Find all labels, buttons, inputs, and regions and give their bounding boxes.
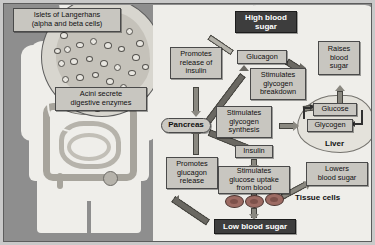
glucagon-label: Glucagon xyxy=(246,53,278,62)
node-glucose: Glucose xyxy=(313,103,357,116)
cecum-icon xyxy=(103,171,118,186)
arrow-promotes-glucagon-to-pancreas xyxy=(193,133,199,155)
node-glucagon: Glucagon xyxy=(237,50,287,64)
liver-label: Liver xyxy=(325,139,344,148)
tissue-cell-3 xyxy=(265,193,284,206)
callout-acini: Acini secrete digestive enzymes xyxy=(55,87,147,111)
high-blood-sugar-line1: High blood xyxy=(245,13,287,22)
promotes-insulin-line3: insulin xyxy=(186,66,207,75)
leg-split xyxy=(87,201,91,235)
arrowhead-lowsugar-to-promotes-glucagon xyxy=(173,195,179,205)
insulin-label: Insulin xyxy=(243,147,264,156)
high-blood-sugar-line2: sugar xyxy=(255,22,277,31)
arrowhead-glucose-to-raises xyxy=(335,85,345,91)
diagram-canvas: Islets of Langerhans (alpha and beta cel… xyxy=(0,0,375,245)
islets-label-line2: (alpha and beta cells) xyxy=(32,19,103,28)
label-liver: Liver xyxy=(325,139,344,148)
node-stimulates-glycogen-breakdown: Stimulates glycogen breakdown xyxy=(250,68,306,100)
label-tissue-cells: Tissue cells xyxy=(295,193,340,202)
appendix-icon xyxy=(57,173,63,189)
stim-synthesis-line3: synthesis xyxy=(229,125,260,134)
node-low-blood-sugar: Low blood sugar xyxy=(214,219,296,234)
cycle-line-right xyxy=(361,110,363,124)
raises-line3: sugar xyxy=(330,61,349,70)
node-pancreas: Pancreas xyxy=(161,118,211,133)
callout-islets-of-langerhans: Islets of Langerhans (alpha and beta cel… xyxy=(13,8,121,32)
node-lowers-blood-sugar: Lowers blood sugar xyxy=(306,162,368,186)
glycogen-label: Glycogen xyxy=(314,121,345,130)
arrow-promotes-insulin-to-pancreas xyxy=(193,87,199,113)
node-stimulates-glucose-uptake: Stimulates glucose uptake from blood xyxy=(218,166,290,194)
tissue-cell-2 xyxy=(245,195,264,208)
node-stimulates-glycogen-synthesis: Stimulates glycogen synthesis xyxy=(216,106,272,138)
arrowhead-promotes-insulin-to-pancreas xyxy=(191,111,201,117)
node-glycogen: Glycogen xyxy=(307,119,353,132)
arrowhead-pancreas-to-glucagon xyxy=(239,65,249,71)
node-raises-blood-sugar: Raises blood sugar xyxy=(318,41,360,75)
tissue-cells-label: Tissue cells xyxy=(295,193,340,202)
node-insulin: Insulin xyxy=(235,145,273,158)
lowers-line2: blood sugar xyxy=(318,173,357,182)
small-intestine-inner-icon xyxy=(67,133,111,161)
stim-uptake-line3: from blood xyxy=(237,183,272,192)
cycle-line-bottom xyxy=(355,123,363,125)
acini-label-line2: digestive enzymes xyxy=(71,98,132,107)
glucose-label: Glucose xyxy=(321,105,348,114)
promotes-glucagon-line3: release xyxy=(180,176,204,185)
node-promotes-release-of-insulin: Promotes release of insulin xyxy=(170,47,222,79)
low-blood-sugar-label: Low blood sugar xyxy=(223,222,287,231)
node-promotes-glucagon-release: Promotes glucagon release xyxy=(166,157,218,189)
pancreas-label: Pancreas xyxy=(168,121,204,130)
tissue-cell-1 xyxy=(225,195,244,208)
stim-breakdown-line3: breakdown xyxy=(260,87,296,96)
arrowhead-synthesis-to-glycogen xyxy=(293,121,299,131)
node-high-blood-sugar: High blood sugar xyxy=(235,11,297,33)
